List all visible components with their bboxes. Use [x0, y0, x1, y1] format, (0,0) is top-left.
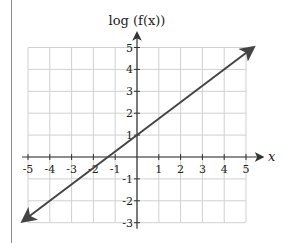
x-tick-label: 4 [221, 163, 228, 176]
y-tick-label: 3 [126, 85, 133, 98]
x-tick-label: 5 [243, 163, 250, 176]
x-tick-label: -3 [66, 163, 77, 176]
chart: -5-4-3-2-112345-3-2-112345xlog (f(x)) [0, 0, 286, 243]
y-tick-label: 4 [126, 63, 133, 76]
y-tick-label: -2 [122, 195, 133, 208]
x-tick-label: -1 [110, 163, 121, 176]
x-axis-label: x [268, 149, 276, 164]
y-tick-label: 2 [126, 107, 133, 120]
x-tick-label: -5 [23, 163, 34, 176]
x-tick-label: 3 [199, 163, 206, 176]
y-axis-label: log (f(x)) [109, 13, 166, 28]
x-tick-label: 1 [155, 163, 162, 176]
data-line [24, 48, 253, 220]
y-tick-label: 5 [126, 42, 133, 55]
y-tick-label: -3 [122, 217, 133, 230]
y-tick-label: -1 [122, 173, 133, 186]
x-tick-label: -4 [44, 163, 55, 176]
x-tick-label: 2 [177, 163, 184, 176]
